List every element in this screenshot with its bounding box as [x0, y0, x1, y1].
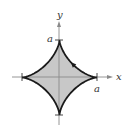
x-axis-label: x	[116, 71, 122, 82]
astroid-diagram: y x a a	[0, 0, 132, 133]
cusp-label-top: a	[47, 33, 53, 44]
astroid-region	[22, 40, 97, 115]
y-axis-arrow-icon	[57, 21, 61, 27]
cusp-label-right: a	[94, 83, 100, 94]
x-axis-arrow-icon	[107, 75, 113, 79]
y-axis-label: y	[56, 9, 63, 20]
